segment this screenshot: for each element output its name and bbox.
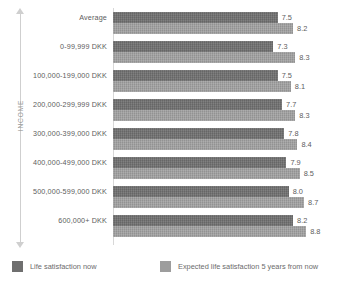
bar-life-satisfaction-now — [113, 12, 278, 23]
bar-expected-life-satisfaction — [113, 139, 297, 150]
category-label: 300,000-399,000 DKK — [0, 129, 107, 138]
bar-row: 8.5 — [113, 168, 315, 179]
bar-life-satisfaction-now — [113, 41, 273, 52]
bar-row: 8.4 — [113, 139, 315, 150]
bar-life-satisfaction-now — [113, 186, 289, 197]
bar-row: 7.5 — [113, 12, 315, 23]
legend-label-expected: Expected life satisfaction 5 years from … — [178, 262, 318, 271]
bar-expected-life-satisfaction — [113, 23, 293, 34]
category-label: 0-99,999 DKK — [0, 42, 107, 51]
bar-group: Average7.58.2 — [0, 12, 346, 36]
bar-expected-life-satisfaction — [113, 226, 306, 237]
bar-expected-life-satisfaction — [113, 197, 304, 208]
category-label: Average — [0, 13, 107, 22]
bar-row: 7.8 — [113, 128, 315, 139]
bar-row: 8.1 — [113, 81, 315, 92]
bar-value-label: 8.3 — [299, 53, 309, 62]
legend-item-now: Life satisfaction now — [12, 258, 97, 274]
bar-group: 500,000-599,000 DKK8.08.7 — [0, 186, 346, 210]
category-label: 100,000-199,000 DKK — [0, 71, 107, 80]
bar-value-label: 7.5 — [282, 13, 292, 22]
category-label: 600,000+ DKK — [0, 216, 107, 225]
bar-row: 8.8 — [113, 226, 315, 237]
bar-row: 8.3 — [113, 110, 315, 121]
bar-life-satisfaction-now — [113, 157, 286, 168]
bar-row: 7.7 — [113, 99, 315, 110]
bar-value-label: 8.2 — [297, 216, 307, 225]
bar-value-label: 8.5 — [304, 169, 314, 178]
category-label: 400,000-499,000 DKK — [0, 158, 107, 167]
life-satisfaction-by-income-chart: INCOME Average7.58.20-99,999 DKK7.38.310… — [0, 0, 346, 290]
bar-row: 8.3 — [113, 52, 315, 63]
chart-legend: Life satisfaction now Expected life sati… — [12, 258, 346, 282]
bar-row: 7.3 — [113, 41, 315, 52]
category-label: 500,000-599,000 DKK — [0, 187, 107, 196]
legend-swatch-icon-expected — [160, 261, 171, 272]
bar-row: 8.2 — [113, 215, 315, 226]
bar-life-satisfaction-now — [113, 99, 282, 110]
bar-life-satisfaction-now — [113, 128, 284, 139]
bar-value-label: 8.4 — [301, 140, 311, 149]
bar-group: 600,000+ DKK8.28.8 — [0, 215, 346, 239]
bar-value-label: 8.0 — [293, 187, 303, 196]
category-label: 200,000-299,999 DKK — [0, 100, 107, 109]
legend-label-now: Life satisfaction now — [30, 262, 97, 271]
bar-value-label: 7.7 — [286, 100, 296, 109]
bar-group: 400,000-499,000 DKK7.98.5 — [0, 157, 346, 181]
bar-value-label: 7.3 — [277, 42, 287, 51]
legend-swatch-icon-now — [12, 261, 23, 272]
bar-life-satisfaction-now — [113, 215, 293, 226]
legend-item-expected: Expected life satisfaction 5 years from … — [160, 258, 318, 274]
bar-group: 300,000-399,000 DKK7.88.4 — [0, 128, 346, 152]
bar-expected-life-satisfaction — [113, 81, 291, 92]
bar-value-label: 7.9 — [290, 158, 300, 167]
bar-value-label: 8.3 — [299, 111, 309, 120]
bar-row: 8.0 — [113, 186, 315, 197]
bar-value-label: 8.2 — [297, 24, 307, 33]
bar-value-label: 8.7 — [308, 198, 318, 207]
bar-group: 0-99,999 DKK7.38.3 — [0, 41, 346, 65]
bar-expected-life-satisfaction — [113, 168, 300, 179]
bar-value-label: 8.8 — [310, 227, 320, 236]
bar-row: 8.2 — [113, 23, 315, 34]
bar-expected-life-satisfaction — [113, 110, 295, 121]
bar-group: 200,000-299,999 DKK7.78.3 — [0, 99, 346, 123]
bar-expected-life-satisfaction — [113, 52, 295, 63]
bar-value-label: 7.8 — [288, 129, 298, 138]
bar-row: 7.9 — [113, 157, 315, 168]
bar-row: 8.7 — [113, 197, 315, 208]
bar-life-satisfaction-now — [113, 70, 278, 81]
plot-area: Average7.58.20-99,999 DKK7.38.3100,000-1… — [0, 8, 346, 248]
bar-group: 100,000-199,000 DKK7.58.1 — [0, 70, 346, 94]
bar-value-label: 7.5 — [282, 71, 292, 80]
bar-row: 7.5 — [113, 70, 315, 81]
bar-value-label: 8.1 — [295, 82, 305, 91]
